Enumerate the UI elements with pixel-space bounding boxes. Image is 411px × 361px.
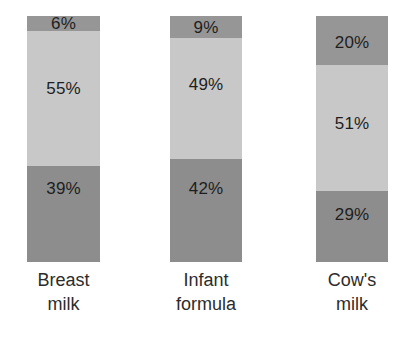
bar-stack: 6% 55% 39% [27, 16, 100, 262]
category-label-breast-milk: Breast milk [13, 268, 114, 316]
segment-value-label: 55% [46, 80, 80, 97]
bar-stack: 9% 49% 42% [170, 16, 242, 262]
segment-value-label: 39% [46, 180, 80, 197]
bar-group-cows-milk: 20% 51% 29% Cow's milk [316, 16, 388, 262]
bar-segment-middle: 51% [316, 65, 388, 190]
bar-segment-top: 6% [27, 16, 100, 31]
category-label-line: Breast [13, 268, 114, 292]
bar-group-breast-milk: 6% 55% 39% Breast milk [27, 16, 100, 262]
plot-area: 6% 55% 39% Breast milk 9% [0, 0, 411, 361]
category-label-line: milk [302, 292, 402, 316]
bar-segment-bottom: 29% [316, 191, 388, 262]
segment-value-label: 6% [51, 16, 76, 31]
bar-segment-bottom: 39% [27, 166, 100, 262]
segment-value-label: 29% [335, 206, 369, 223]
bar-stack: 20% 51% 29% [316, 16, 388, 262]
bar-segment-top: 9% [170, 16, 242, 38]
category-label-line: Cow's [302, 268, 402, 292]
category-label-cows-milk: Cow's milk [302, 268, 402, 316]
category-label-line: Infant [148, 268, 264, 292]
segment-value-label: 49% [189, 76, 223, 93]
bar-segment-bottom: 42% [170, 159, 242, 262]
segment-value-label: 42% [189, 180, 223, 197]
category-label-line: milk [13, 292, 114, 316]
stacked-bar-chart: 6% 55% 39% Breast milk 9% [0, 0, 411, 361]
segment-value-label: 51% [335, 115, 369, 132]
category-label-infant-formula: Infant formula [148, 268, 264, 316]
bar-segment-middle: 55% [27, 31, 100, 166]
segment-value-label: 9% [194, 19, 219, 36]
bar-segment-top: 20% [316, 16, 388, 65]
category-label-line: formula [148, 292, 264, 316]
segment-value-label: 20% [335, 34, 369, 51]
bar-group-infant-formula: 9% 49% 42% Infant formula [170, 16, 242, 262]
bar-segment-middle: 49% [170, 38, 242, 159]
